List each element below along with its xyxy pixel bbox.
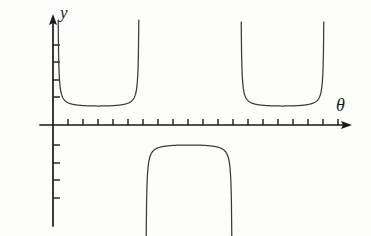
curve-middle-downward-branch	[146, 145, 232, 236]
function-curve-group	[58, 20, 324, 236]
y-axis-label: y	[60, 4, 68, 21]
plot-canvas	[0, 0, 371, 236]
x-axis-group	[40, 119, 352, 129]
function-graph-figure: y θ	[0, 0, 371, 236]
theta-axis-label: θ	[336, 96, 345, 114]
curve-left-upward-branch	[58, 20, 139, 106]
curve-right-upward-branch	[241, 22, 324, 106]
x-axis-ticks	[68, 119, 338, 125]
